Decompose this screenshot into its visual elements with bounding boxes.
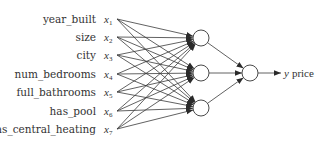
edge: [208, 43, 244, 69]
input-year_built: year_builtx1: [42, 13, 113, 27]
edge: [117, 42, 194, 92]
input-variable: x5: [103, 86, 113, 100]
edge: [117, 73, 193, 74]
output-name: price: [292, 67, 314, 79]
input-variable: x7: [103, 123, 113, 137]
feature-label: has_central_heating: [0, 123, 96, 136]
output-var: y: [283, 67, 289, 79]
feature-label: year_built: [42, 13, 97, 26]
input-has_central_heating: has_central_heatingx7: [0, 123, 113, 137]
feature-label: city: [77, 49, 96, 61]
input-has_pool: has_poolx6: [50, 105, 113, 119]
edge: [117, 108, 193, 111]
edge: [208, 78, 244, 104]
hidden-to-output-edges: [208, 43, 244, 104]
input-size: sizex2: [76, 31, 113, 45]
feature-label: has_pool: [50, 105, 97, 118]
edge: [117, 37, 193, 38]
hidden-node-3: [193, 100, 209, 116]
hidden-node-1: [193, 30, 209, 46]
hidden-layer: [193, 30, 209, 116]
input-variable: x4: [103, 68, 113, 82]
input-variable: x3: [103, 49, 113, 63]
edge: [117, 55, 194, 104]
input-full_bathrooms: full_bathroomsx5: [16, 86, 112, 100]
input-city: cityx3: [77, 49, 113, 63]
input-variable: x6: [103, 105, 113, 119]
edge: [117, 19, 194, 69]
input-layer: year_builtx1sizex2cityx3num_bedroomsx4fu…: [0, 13, 113, 137]
neural-network-diagram: year_builtx1sizex2cityx3num_bedroomsx4fu…: [0, 0, 328, 144]
edge: [117, 110, 193, 129]
output-node: [242, 65, 258, 81]
output-label: yprice: [283, 67, 314, 79]
edge: [117, 44, 196, 129]
input-to-hidden-edges: [117, 19, 196, 129]
hidden-node-2: [193, 65, 209, 81]
edge: [117, 19, 193, 36]
input-variable: x1: [103, 13, 113, 27]
feature-label: size: [76, 31, 97, 43]
edge: [117, 76, 194, 111]
feature-label: full_bathrooms: [16, 86, 96, 99]
feature-label: num_bedrooms: [15, 68, 96, 81]
input-variable: x2: [103, 31, 113, 45]
input-num_bedrooms: num_bedroomsx4: [15, 68, 113, 82]
edge: [117, 77, 194, 129]
